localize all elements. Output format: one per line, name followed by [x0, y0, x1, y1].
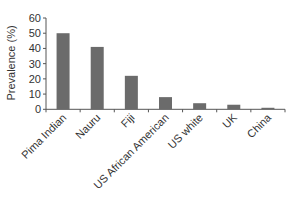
bar: [227, 105, 240, 110]
x-tick-label: Pima Indian: [19, 111, 69, 161]
x-tick-label: UK: [220, 111, 240, 131]
y-tick-label: 0: [35, 103, 41, 115]
x-tick-labels: Pima IndianNauruFijiUS African AmericanU…: [19, 111, 274, 191]
y-tick-label: 40: [29, 42, 41, 54]
bar: [159, 97, 172, 109]
x-axis: [46, 109, 285, 112]
bar-chart: 0102030405060 Pima IndianNauruFijiUS Afr…: [0, 0, 294, 199]
y-tick-label: 20: [29, 73, 41, 85]
bar: [125, 76, 138, 109]
y-tick-label: 60: [29, 12, 41, 24]
x-tick-label: US white: [165, 111, 205, 151]
x-tick-label: Nauru: [73, 111, 103, 141]
y-tick-label: 10: [29, 88, 41, 100]
y-axis-label: Prevalence (%): [5, 25, 17, 100]
x-tick-label: China: [245, 111, 274, 140]
bar: [261, 108, 274, 110]
bar: [57, 33, 70, 109]
y-tick-label: 50: [29, 27, 41, 39]
y-tick-label: 30: [29, 58, 41, 70]
x-tick-label: Fiji: [118, 111, 136, 129]
bars: [57, 33, 275, 109]
bar: [91, 47, 104, 109]
bar: [193, 103, 206, 109]
y-axis: 0102030405060: [29, 12, 46, 115]
